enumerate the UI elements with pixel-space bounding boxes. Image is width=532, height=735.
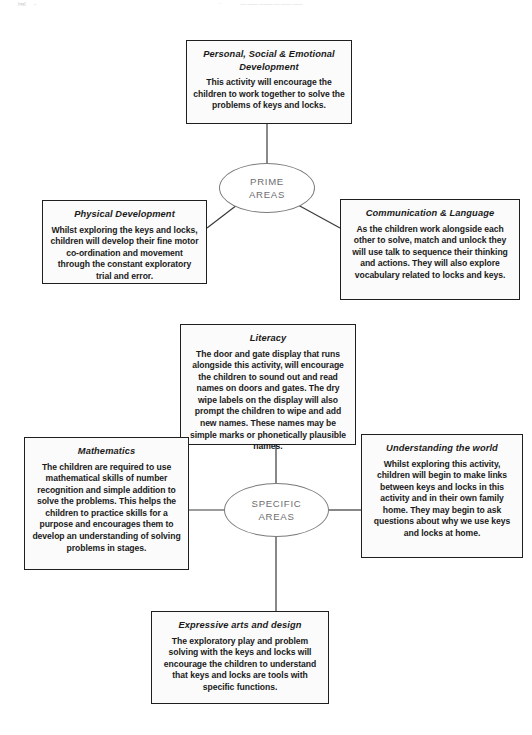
header-artifact-0: [spg] bbox=[18, 2, 25, 7]
node-literacy: Literacy The door and gate display that … bbox=[180, 324, 356, 445]
node-body: The exploratory play and problem solving… bbox=[158, 636, 322, 694]
hub-label-line1: PRIME bbox=[250, 175, 284, 188]
node-title: Physical Development bbox=[49, 208, 200, 221]
node-personal-social-emotional: Personal, Social & Emotional Development… bbox=[186, 40, 352, 124]
node-body: Whilst exploring the keys and locks, chi… bbox=[49, 225, 200, 283]
node-title: Personal, Social & Emotional Development bbox=[193, 48, 345, 73]
hub-label-line1: SPECIFIC bbox=[252, 497, 302, 510]
node-body: This activity will encourage the childre… bbox=[193, 77, 345, 112]
node-body: The children are required to use mathema… bbox=[31, 462, 182, 555]
header-artifact-3: —— ——— ———— —— ——— ——— bbox=[240, 2, 302, 7]
node-mathematics: Mathematics The children are required to… bbox=[24, 437, 189, 570]
node-title: Expressive arts and design bbox=[158, 619, 322, 632]
node-title: Communication & Language bbox=[347, 207, 513, 220]
node-body: Whilst exploring this activity, children… bbox=[368, 459, 516, 540]
node-title: Mathematics bbox=[31, 445, 182, 458]
node-title: Literacy bbox=[187, 332, 349, 345]
node-title: Understanding the world bbox=[368, 442, 516, 455]
node-expressive-arts-and-design: Expressive arts and design The explorato… bbox=[151, 611, 329, 704]
page-header-artifacts: [spg] → ··· —— ——— ———— —— ——— ——— bbox=[0, 0, 532, 14]
node-body: The door and gate display that runs alon… bbox=[187, 349, 349, 453]
hub-prime-areas: PRIME AREAS bbox=[219, 163, 315, 213]
hub-specific-areas: SPECIFIC AREAS bbox=[224, 483, 329, 537]
line-prime-to-physical bbox=[207, 205, 237, 228]
hub-label-line2: AREAS bbox=[258, 510, 294, 523]
node-body: As the children work alongside each othe… bbox=[347, 224, 513, 282]
line-prime-to-communication bbox=[298, 205, 340, 228]
hub-label-line2: AREAS bbox=[249, 188, 285, 201]
diagram-canvas: [spg] → ··· —— ——— ———— —— ——— ——— Perso… bbox=[0, 0, 532, 735]
node-physical-development: Physical Development Whilst exploring th… bbox=[42, 200, 207, 284]
node-communication-language: Communication & Language As the children… bbox=[340, 199, 520, 300]
header-artifact-2: ··· bbox=[218, 2, 221, 7]
header-artifact-1: → bbox=[33, 2, 36, 7]
node-understanding-the-world: Understanding the world Whilst exploring… bbox=[361, 434, 523, 558]
